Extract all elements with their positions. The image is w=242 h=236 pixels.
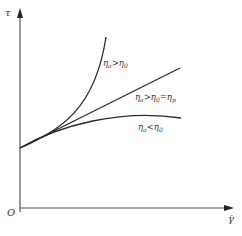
y-axis-label: τ [5, 7, 11, 18]
label-shear-thickening: ηa>η0 [103, 58, 128, 69]
label-bingham: ηa>η0=ηp [135, 92, 176, 104]
x-axis-arrow-icon [224, 205, 234, 211]
label-shear-thinning: ηa<η0 [138, 122, 163, 133]
curve-shear-thickening [20, 37, 106, 148]
flow-curve-diagram: τ γ̇ O ηa>η0 ηa>η0=ηp ηa<η0 [0, 0, 242, 236]
origin-label: O [7, 207, 15, 218]
x-axis-label: γ̇ [228, 213, 234, 224]
y-axis-arrow-icon [17, 8, 23, 18]
